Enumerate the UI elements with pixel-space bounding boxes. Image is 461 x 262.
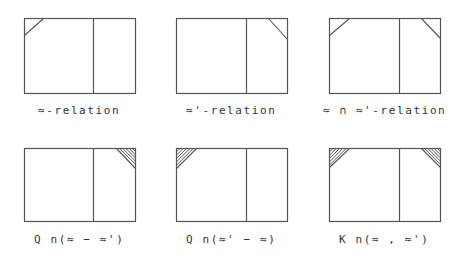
hatch-line: [129, 149, 135, 155]
panel-frame: [330, 19, 441, 94]
hatch-line: [330, 149, 347, 166]
hatch-line: [434, 149, 440, 155]
panel-frame: [330, 149, 441, 222]
panel-intersection-relation: [330, 19, 441, 94]
panel-label-q-difference-2: Q n(≈' − ≈): [186, 233, 276, 247]
panel-approx-relation: [25, 19, 136, 94]
corner-cut-line-top-left: [330, 19, 350, 36]
panel-approx-prime-relation: [177, 19, 288, 94]
panel-frame: [177, 149, 288, 222]
hatch-line: [330, 149, 337, 156]
panel-label-k-pair: K n(≈ , ≈'): [339, 233, 429, 247]
panel-frame: [25, 149, 136, 222]
hatched-corner-top-right: [117, 149, 136, 169]
corner-cut-line-top-left: [25, 19, 44, 36]
panel-k-pair: [330, 149, 441, 222]
hatched-corner-top-right: [422, 149, 441, 168]
hatch-line: [177, 149, 184, 156]
panel-label-approx-relation: ≈-relation: [38, 104, 120, 118]
panel-frame: [25, 19, 136, 94]
panel-label-approx-prime-relation: ≈'-relation: [186, 104, 276, 118]
corner-cut-line-top-right: [422, 19, 441, 39]
panel-q-difference-2: [177, 149, 288, 222]
hatch-line: [425, 149, 441, 165]
panel-label-intersection-relation: ≈ ∩ ≈'-relation: [323, 104, 446, 118]
panel-q-difference-1: [25, 149, 136, 222]
panel-frame: [177, 19, 288, 94]
hatch-line: [177, 149, 194, 166]
panel-label-q-difference-1: Q n(≈ − ≈'): [34, 233, 124, 247]
hatch-line: [120, 149, 136, 165]
diagram-canvas: [0, 0, 461, 262]
hatched-corner-top-left: [330, 149, 350, 168]
corner-cut-line-top-right: [269, 19, 288, 40]
hatched-corner-top-left: [177, 149, 197, 169]
